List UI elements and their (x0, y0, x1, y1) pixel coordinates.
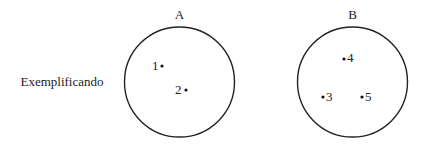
point-3-dot (321, 95, 324, 98)
point-5-dot (360, 95, 363, 98)
set-diagram: Exemplificando A 1 2 B 4 3 5 (0, 0, 427, 144)
set-a-label: A (175, 7, 185, 22)
point-1-label: 1 (152, 58, 159, 73)
point-2-dot (184, 88, 187, 91)
point-4-label: 4 (347, 50, 354, 65)
point-1-dot (160, 64, 163, 67)
set-a: A 1 2 (125, 7, 235, 137)
set-b-label: B (348, 7, 357, 22)
set-b-circle (298, 27, 408, 137)
point-2-label: 2 (175, 82, 182, 97)
set-b: B 4 3 5 (298, 7, 408, 137)
side-label: Exemplificando (20, 74, 103, 89)
point-5-label: 5 (365, 89, 372, 104)
point-3-label: 3 (326, 89, 333, 104)
point-4-dot (342, 57, 345, 60)
